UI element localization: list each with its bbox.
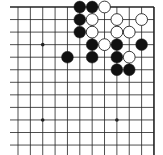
- black-stone: [62, 51, 74, 63]
- white-stone: [136, 14, 148, 26]
- white-stone: [99, 1, 111, 13]
- white-stone: [99, 39, 111, 51]
- star-point: [41, 118, 45, 122]
- white-stone: [123, 26, 135, 38]
- black-stone: [111, 64, 123, 76]
- go-board: [0, 0, 163, 155]
- black-stone: [123, 64, 135, 76]
- black-stone: [74, 1, 86, 13]
- white-stone: [111, 26, 123, 38]
- white-stone: [123, 51, 135, 63]
- black-stone: [74, 14, 86, 26]
- black-stone: [111, 51, 123, 63]
- white-stone: [86, 26, 98, 38]
- star-point: [115, 118, 119, 122]
- black-stone: [86, 1, 98, 13]
- white-stone: [111, 14, 123, 26]
- black-stone: [86, 39, 98, 51]
- white-stone: [86, 14, 98, 26]
- black-stone: [111, 39, 123, 51]
- black-stone: [74, 26, 86, 38]
- black-stone: [136, 39, 148, 51]
- star-point: [41, 43, 45, 47]
- black-stone: [86, 51, 98, 63]
